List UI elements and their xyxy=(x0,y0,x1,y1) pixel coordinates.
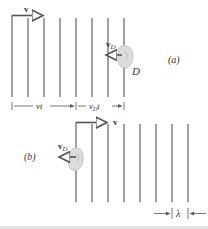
ear-detector-a xyxy=(118,46,133,69)
wavelength-label: λ xyxy=(175,208,181,219)
panel-b-label: (b) xyxy=(24,151,36,163)
panel-a-wavefronts xyxy=(12,15,124,97)
velocity-label-a: v xyxy=(24,4,29,14)
detector-label: D xyxy=(131,65,140,77)
dimension-vt xyxy=(12,102,124,110)
dimension-vdt-label: vDt xyxy=(89,101,100,112)
velocity-label-b: v xyxy=(113,117,118,127)
panel-b-wavefronts xyxy=(76,122,188,202)
caption-cutoff xyxy=(0,226,208,229)
ear-detector-b xyxy=(69,148,83,171)
doppler-diagram: v vD D (a) vt vDt v vD (b) xyxy=(0,0,208,229)
panel-a-label: (a) xyxy=(168,54,180,66)
detector-velocity-label-b: vD xyxy=(58,141,68,153)
dimension-vt-label: vt xyxy=(36,101,43,111)
